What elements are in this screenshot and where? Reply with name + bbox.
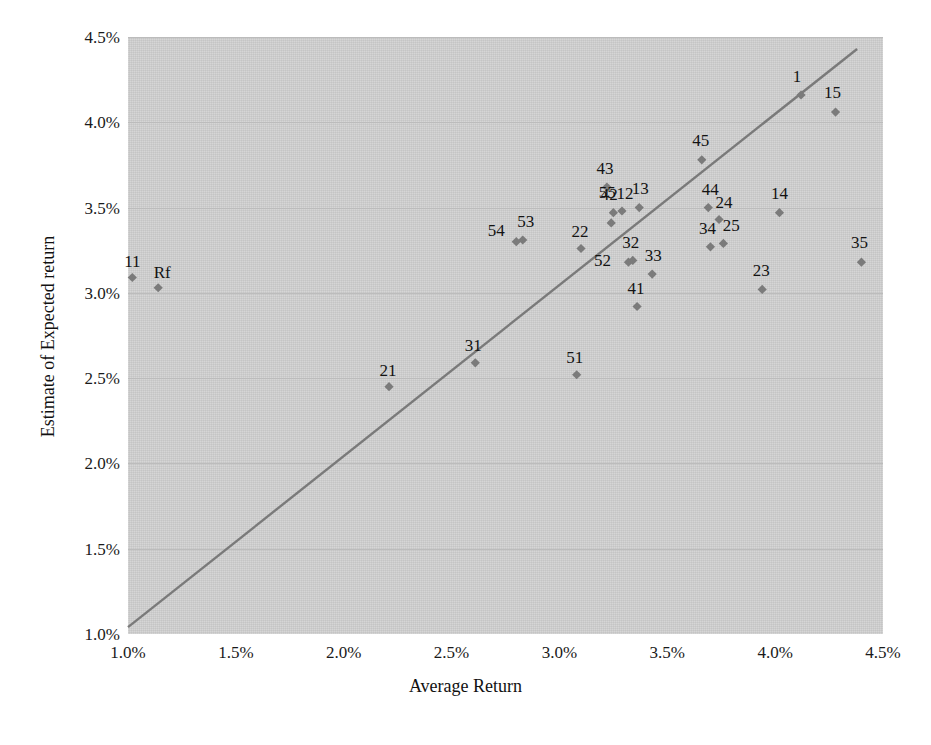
- x-tick-label-4.5%: 4.5%: [843, 643, 923, 663]
- data-point-label-25: 25: [723, 217, 740, 234]
- y-tick-label-2.5%: 2.5%: [48, 369, 120, 389]
- x-tick-label-2.0%: 2.0%: [304, 643, 384, 663]
- plot-area: [128, 37, 883, 634]
- data-point-marker-41[interactable]: [632, 302, 641, 311]
- y-tick-label-2.0%: 2.0%: [48, 454, 120, 474]
- data-point-marker-53[interactable]: [518, 235, 527, 244]
- reference-line: [128, 49, 857, 627]
- y-tick-label-3.5%: 3.5%: [48, 199, 120, 219]
- data-point-label-53: 53: [517, 212, 534, 229]
- x-tick-label-3.0%: 3.0%: [519, 643, 599, 663]
- x-tick-label-1.0%: 1.0%: [88, 643, 168, 663]
- data-point-marker-45[interactable]: [697, 155, 706, 164]
- data-point-marker-15[interactable]: [831, 107, 840, 116]
- data-point-marker-21[interactable]: [384, 382, 393, 391]
- data-point-label-45: 45: [692, 131, 709, 148]
- data-point-label-21: 21: [380, 361, 397, 378]
- x-tick-label-3.5%: 3.5%: [627, 643, 707, 663]
- data-point-label-14: 14: [771, 184, 788, 201]
- y-tick-label-4.0%: 4.0%: [48, 113, 120, 133]
- y-tick-label-3.0%: 3.0%: [48, 284, 120, 304]
- x-tick-label-1.5%: 1.5%: [196, 643, 276, 663]
- x-tick-label-2.5%: 2.5%: [412, 643, 492, 663]
- data-point-marker-Rf[interactable]: [154, 283, 163, 292]
- x-axis-title: Average Return: [0, 676, 931, 697]
- data-point-marker-35[interactable]: [857, 258, 866, 267]
- data-point-marker-44[interactable]: [704, 203, 713, 212]
- data-point-marker-54[interactable]: [512, 237, 521, 246]
- x-tick-label-4.0%: 4.0%: [735, 643, 815, 663]
- data-overlay: [128, 37, 883, 634]
- data-point-label-52: 52: [594, 252, 611, 269]
- data-point-marker-31[interactable]: [471, 358, 480, 367]
- data-point-label-24: 24: [716, 193, 733, 210]
- data-point-label-51: 51: [566, 348, 583, 365]
- scatter-chart-figure: 1.0%1.5%2.0%2.5%3.0%3.5%4.0%4.5% 1.0%1.5…: [0, 0, 931, 745]
- data-point-label-22: 22: [572, 222, 589, 239]
- data-point-label-41: 41: [628, 279, 645, 296]
- data-point-marker-23[interactable]: [758, 285, 767, 294]
- y-axis-title: Estimate of Expected return: [38, 37, 59, 637]
- data-point-marker-12[interactable]: [617, 206, 626, 215]
- data-point-label-31: 31: [465, 336, 482, 353]
- data-point-marker-42[interactable]: [609, 208, 618, 217]
- data-point-marker-25[interactable]: [719, 239, 728, 248]
- data-point-label-32: 32: [622, 234, 639, 251]
- data-point-label-1: 1: [793, 67, 802, 84]
- y-tick-label-1.5%: 1.5%: [48, 540, 120, 560]
- data-point-marker-55[interactable]: [607, 218, 616, 227]
- data-point-marker-22[interactable]: [576, 244, 585, 253]
- data-point-marker-34[interactable]: [706, 242, 715, 251]
- data-point-marker-13[interactable]: [635, 203, 644, 212]
- data-point-marker-14[interactable]: [775, 208, 784, 217]
- data-markers-group: [128, 90, 866, 391]
- data-point-label-34: 34: [699, 219, 716, 236]
- data-point-marker-51[interactable]: [572, 370, 581, 379]
- data-point-label-35: 35: [851, 234, 868, 251]
- data-point-label-54: 54: [488, 221, 505, 238]
- data-point-label-13: 13: [632, 179, 649, 196]
- y-tick-label-1.0%: 1.0%: [48, 625, 120, 645]
- data-point-label-42: 42: [601, 185, 618, 202]
- data-point-label-15: 15: [824, 84, 841, 101]
- data-point-label-Rf: Rf: [154, 263, 171, 280]
- data-point-label-23: 23: [753, 262, 770, 279]
- y-tick-label-4.5%: 4.5%: [48, 28, 120, 48]
- data-point-label-43: 43: [596, 160, 613, 177]
- data-point-marker-11[interactable]: [128, 273, 137, 282]
- data-point-marker-33[interactable]: [648, 269, 657, 278]
- data-point-label-11: 11: [124, 252, 140, 269]
- data-point-label-33: 33: [645, 247, 662, 264]
